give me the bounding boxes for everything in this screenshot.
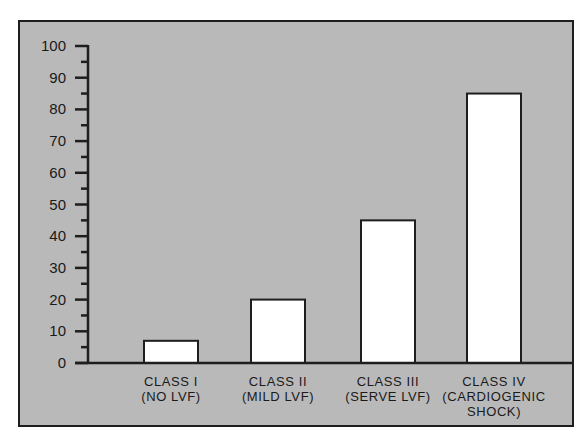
x-category-label: (NO LVF)	[141, 389, 200, 404]
y-tick-label: 20	[49, 291, 66, 308]
x-category-label: (CARDIOGENIC	[442, 389, 545, 404]
y-tick-label: 90	[49, 69, 66, 86]
x-category-label: (MILD LVF)	[242, 389, 314, 404]
bar	[361, 220, 415, 363]
bar-chart: 0102030405060708090100 CLASS I(NO LVF)CL…	[0, 0, 588, 443]
y-tick-label: 50	[49, 196, 66, 213]
x-category-label: CLASS I	[144, 374, 198, 389]
y-tick-label: 60	[49, 164, 66, 181]
bar	[251, 300, 305, 363]
bar	[467, 94, 521, 363]
x-category-label: CLASS III	[357, 374, 419, 389]
y-tick-label: 0	[58, 354, 66, 371]
y-tick-label: 100	[41, 37, 66, 54]
y-tick-label: 30	[49, 259, 66, 276]
y-tick-label: 80	[49, 100, 66, 117]
bar	[144, 341, 198, 363]
y-tick-label: 10	[49, 322, 66, 339]
x-category-label: CLASS IV	[462, 374, 525, 389]
y-axis: 0102030405060708090100	[41, 37, 88, 371]
x-axis-labels: CLASS I(NO LVF)CLASS II(MILD LVF)CLASS I…	[141, 374, 545, 419]
x-category-label: CLASS II	[249, 374, 307, 389]
x-category-label: SHOCK)	[467, 404, 521, 419]
bars	[144, 94, 521, 363]
y-tick-label: 40	[49, 227, 66, 244]
y-tick-label: 70	[49, 132, 66, 149]
x-category-label: (SERVE LVF)	[345, 389, 431, 404]
